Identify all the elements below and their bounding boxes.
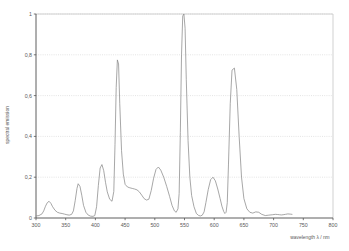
spectral-emission-figure: 00,20,40,60,81 3003504004505005506006507…: [0, 0, 349, 251]
x-axis-tick-label: 400: [91, 222, 100, 228]
x-axis-tick-label: 500: [150, 222, 159, 228]
x-axis-tick-label: 600: [210, 222, 219, 228]
x-axis-tick-label: 800: [329, 222, 338, 228]
y-axis-tick-label: 0,8: [25, 52, 32, 58]
chart-background: [0, 0, 349, 251]
x-axis-tick-label: 700: [269, 222, 278, 228]
y-axis-title: spectral emission: [5, 106, 10, 144]
x-axis-tick-label: 450: [121, 222, 130, 228]
y-axis-tick-label: 0,4: [25, 133, 32, 139]
x-axis-title: wavelength λ / nm: [290, 235, 329, 240]
y-axis-tick-label: 1: [29, 11, 32, 17]
x-axis-tick-label: 550: [180, 222, 189, 228]
spectral-emission-chart: 00,20,40,60,81 3003504004505005506006507…: [0, 0, 349, 251]
y-axis-tick-label: 0: [29, 215, 32, 221]
x-axis-tick-label: 300: [32, 222, 41, 228]
y-axis-tick-label: 0,2: [25, 174, 32, 180]
y-axis-tick-label: 0,6: [25, 93, 32, 99]
x-axis-tick-label: 650: [239, 222, 248, 228]
x-axis-tick-label: 350: [61, 222, 70, 228]
x-axis-tick-label: 750: [299, 222, 308, 228]
